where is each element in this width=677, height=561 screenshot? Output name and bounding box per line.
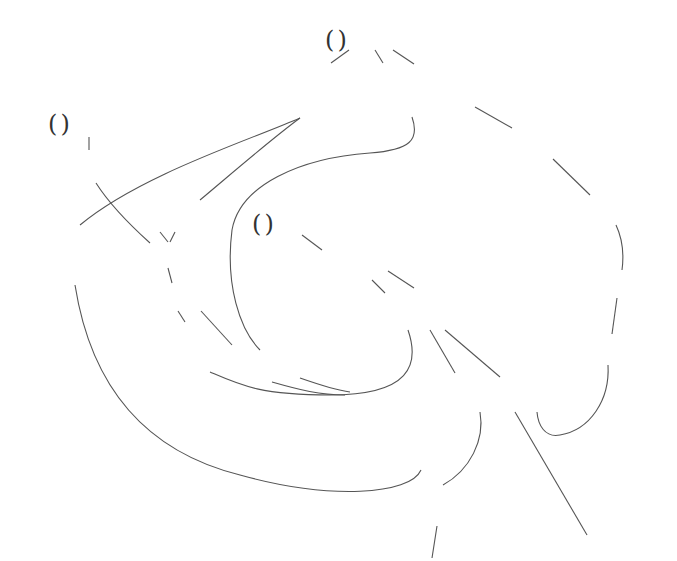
- close-paren: ): [264, 212, 273, 236]
- group-label-caucasoid: ( ): [325, 28, 347, 52]
- close-paren: ): [60, 112, 69, 136]
- open-paren: (: [252, 212, 261, 236]
- group-label-mongoloid-top: ( ): [48, 112, 70, 136]
- group-label-negroid: ( ): [252, 212, 274, 236]
- connector-lines: [0, 0, 677, 561]
- close-paren: ): [337, 28, 346, 52]
- open-paren: (: [325, 28, 334, 52]
- open-paren: (: [48, 112, 57, 136]
